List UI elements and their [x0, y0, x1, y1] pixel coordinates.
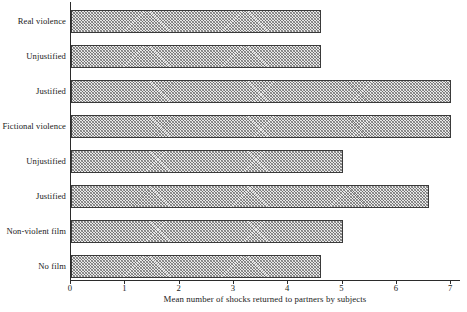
category-label: Non-violent film [0, 227, 66, 236]
x-axis-title: Mean number of shocks returned to partne… [70, 295, 460, 304]
category-label: Justified [0, 192, 66, 201]
category-label: Unjustified [0, 52, 66, 61]
bar [71, 45, 321, 68]
x-tick-label: 2 [169, 284, 189, 293]
x-tick-label: 7 [440, 284, 460, 293]
category-label: Real violence [0, 17, 66, 26]
category-label: Unjustified [0, 157, 66, 166]
x-tick-label: 6 [386, 284, 406, 293]
bar [71, 185, 429, 208]
bar [71, 80, 451, 103]
x-tick-label: 3 [223, 284, 243, 293]
plot-area [70, 2, 460, 281]
x-tick-label: 1 [114, 284, 134, 293]
bar [71, 10, 321, 33]
category-label: No film [0, 262, 66, 271]
bar [71, 115, 451, 138]
bar [71, 255, 321, 278]
bar [71, 150, 343, 173]
category-label: Fictional violence [0, 122, 66, 131]
x-tick-label: 4 [277, 284, 297, 293]
bar-chart: Real violenceUnjustifiedJustifiedFiction… [0, 0, 467, 312]
x-tick-label: 0 [60, 284, 80, 293]
category-label: Justified [0, 87, 66, 96]
x-tick-label: 5 [332, 284, 352, 293]
bar [71, 220, 343, 243]
